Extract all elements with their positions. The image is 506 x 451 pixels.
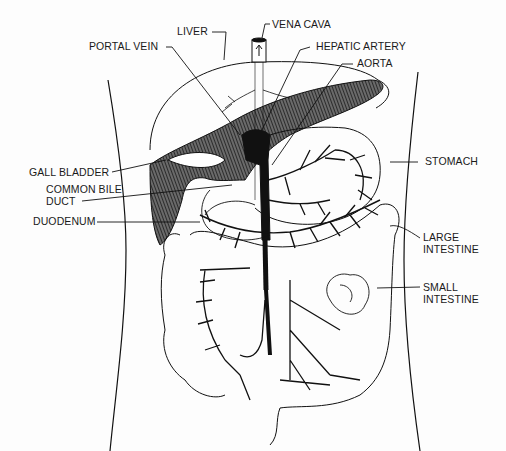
- label-common-bile-duct-line1: COMMON BILE: [46, 184, 122, 196]
- leader-vena-cava: [262, 24, 270, 38]
- label-liver: LIVER: [177, 26, 208, 38]
- label-gall-bladder: GALL BLADDER: [29, 167, 109, 179]
- large-intestine: [161, 204, 399, 445]
- mesenteric-arteries: [196, 268, 360, 400]
- leader-small-intestine: [377, 287, 420, 288]
- label-stomach: STOMACH: [425, 156, 478, 168]
- label-common-bile-duct-line2: DUCT: [46, 196, 76, 208]
- label-vena-cava: VENA CAVA: [272, 19, 331, 31]
- small-intestine: [327, 274, 369, 314]
- label-hepatic-artery: HEPATIC ARTERY: [316, 41, 406, 53]
- anatomy-diagram: LIVER VENA CAVA PORTAL VEIN HEPATIC ARTE…: [0, 0, 506, 451]
- label-aorta: AORTA: [357, 58, 393, 70]
- label-portal-vein: PORTAL VEIN: [89, 41, 158, 53]
- label-small-intestine-line1: SMALL: [423, 282, 458, 294]
- leader-liver: [212, 32, 226, 60]
- colon-arteries: [200, 200, 380, 248]
- label-large-intestine-line1: LARGE: [423, 232, 459, 244]
- label-large-intestine-line2: INTESTINE: [423, 244, 479, 256]
- label-duodenum: DUODENUM: [33, 216, 96, 228]
- stomach-arteries: [268, 145, 372, 215]
- label-small-intestine-line2: INTESTINE: [423, 294, 479, 306]
